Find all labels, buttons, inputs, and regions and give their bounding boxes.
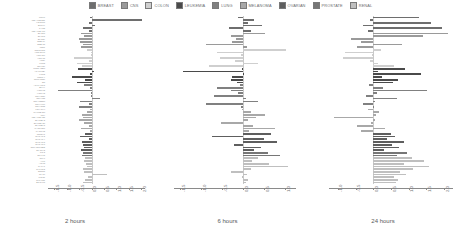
data-bar xyxy=(373,68,405,70)
x-axis-tick-label: 0.5 xyxy=(106,186,110,192)
legend-item[interactable]: LEUKEMIA xyxy=(176,2,205,9)
plot-area xyxy=(329,16,453,184)
data-bar xyxy=(242,109,244,111)
legend-item[interactable]: OVARIAN xyxy=(279,2,306,9)
data-bar xyxy=(370,19,373,21)
data-bar xyxy=(83,182,91,184)
legend-swatch-icon xyxy=(212,2,219,9)
data-bar xyxy=(58,90,92,92)
legend-swatch-icon xyxy=(121,2,128,9)
x-axis-tick-label: 0.0 xyxy=(93,186,97,192)
data-bar xyxy=(214,95,243,97)
legend-item[interactable]: BREAST xyxy=(89,2,114,9)
data-bar xyxy=(72,76,91,78)
legend-item[interactable]: MELANOMA xyxy=(240,2,272,9)
data-bar xyxy=(232,76,243,78)
data-bar xyxy=(209,65,243,67)
x-axis-tick-label: -1.0 xyxy=(339,185,343,192)
data-bar xyxy=(373,90,427,92)
data-bar xyxy=(229,27,243,29)
legend-item[interactable]: COLON xyxy=(145,2,168,9)
data-bar xyxy=(84,84,91,86)
data-bar xyxy=(373,168,413,170)
data-bar xyxy=(243,174,246,176)
x-axis-tick-label: 2.0 xyxy=(446,186,450,192)
data-bar xyxy=(368,109,373,111)
data-bar xyxy=(85,157,91,159)
data-bar xyxy=(81,33,92,35)
data-bar xyxy=(235,60,243,62)
x-axis-tick-label: 0.0 xyxy=(245,186,249,192)
data-bar xyxy=(243,114,265,116)
data-bar xyxy=(243,130,249,132)
data-bar xyxy=(373,174,406,176)
data-bar xyxy=(373,141,403,143)
data-bar xyxy=(243,119,247,121)
data-bar xyxy=(243,33,265,35)
legend-swatch-icon xyxy=(350,2,357,9)
x-axis-tick-label: 1.0 xyxy=(410,186,414,192)
legend-item[interactable]: LUNG xyxy=(212,2,232,9)
data-bar xyxy=(92,19,142,21)
x-axis-tick-label: -1.0 xyxy=(203,185,207,192)
data-bar xyxy=(82,155,91,157)
legend-item[interactable]: RENAL xyxy=(350,2,372,9)
data-bar xyxy=(361,41,373,43)
chart-panel: -1.5-1.0-0.50.00.51.06 hours xyxy=(150,16,305,232)
data-bar xyxy=(79,38,92,40)
data-bar xyxy=(243,111,251,113)
data-bar xyxy=(232,41,243,43)
legend-swatch-icon xyxy=(240,2,247,9)
data-bar xyxy=(89,103,92,105)
legend-swatch-icon xyxy=(145,2,152,9)
data-bar xyxy=(217,52,243,54)
x-axis-tick-label: -0.5 xyxy=(357,185,361,192)
data-bar xyxy=(220,57,244,59)
data-bar xyxy=(77,63,91,65)
data-bar xyxy=(90,109,91,111)
data-bar xyxy=(231,171,244,173)
data-bar xyxy=(77,82,92,84)
data-bar xyxy=(231,90,244,92)
data-bar xyxy=(81,128,92,130)
data-bar xyxy=(373,73,420,75)
data-bar xyxy=(373,27,442,29)
data-bar xyxy=(80,101,91,103)
data-bar xyxy=(357,46,373,48)
panel-container: MCF7MDA-MB-231HS 578TBT-549T-47DMDA-MB-4… xyxy=(0,16,461,232)
data-bar xyxy=(236,38,244,40)
data-bar xyxy=(80,136,91,138)
data-bar xyxy=(183,71,244,73)
data-bar xyxy=(82,141,92,143)
data-bar xyxy=(373,160,424,162)
data-bar xyxy=(373,179,398,181)
legend-swatch-icon xyxy=(176,2,183,9)
data-bar xyxy=(363,103,373,105)
data-bar xyxy=(78,68,92,70)
data-bar xyxy=(91,52,92,54)
data-bar xyxy=(373,163,404,165)
data-bar xyxy=(243,182,246,184)
x-axis-tick-label: 1.0 xyxy=(287,186,291,192)
data-bar xyxy=(82,114,92,116)
data-bar xyxy=(83,152,91,154)
data-bar xyxy=(371,122,373,124)
data-bar xyxy=(243,63,257,65)
data-bar xyxy=(373,138,387,140)
data-bar xyxy=(373,98,396,100)
legend-item[interactable]: PROSTATE xyxy=(313,2,343,9)
data-bar xyxy=(84,171,91,173)
data-bar xyxy=(243,19,254,21)
legend-item[interactable]: CNS xyxy=(121,2,139,9)
data-bar xyxy=(373,106,374,108)
data-bar xyxy=(87,166,92,168)
chart-panel: MCF7MDA-MB-231HS 578TBT-549T-47DMDA-MB-4… xyxy=(0,16,150,232)
data-bar xyxy=(373,176,394,178)
data-bar xyxy=(373,133,391,135)
data-bar xyxy=(373,111,379,113)
data-bar xyxy=(373,144,391,146)
data-bar xyxy=(373,182,396,184)
x-axis-tick-label: 0.5 xyxy=(393,186,397,192)
x-axis-tick-label: 1.5 xyxy=(428,186,432,192)
data-bar xyxy=(243,46,246,48)
